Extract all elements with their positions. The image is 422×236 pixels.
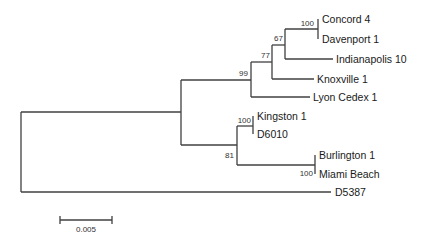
- leaf-label: Knoxville 1: [317, 73, 368, 85]
- leaf-label: Indianapolis 10: [336, 53, 407, 65]
- bootstrap-value: 81: [225, 151, 234, 160]
- leaf-label: Miami Beach: [319, 168, 380, 180]
- leaf-label: Lyon Cedex 1: [313, 91, 378, 103]
- bootstrap-value: 77: [261, 51, 270, 60]
- bootstrap-value: 100: [301, 19, 315, 28]
- leaf-label: D6010: [257, 128, 288, 140]
- bootstrap-value: 100: [300, 169, 314, 178]
- leaf-label: D5387: [335, 186, 366, 198]
- scale-bar: 0.005: [60, 216, 112, 234]
- leaf-label: Kingston 1: [257, 110, 307, 122]
- bootstrap-value: 99: [239, 69, 248, 78]
- leaf-label: Davenport 1: [322, 33, 379, 45]
- scale-bar-label: 0.005: [76, 225, 97, 234]
- leaf-label: Concord 4: [322, 13, 371, 25]
- bootstrap-value: 100: [238, 116, 252, 125]
- phylogenetic-tree: Concord 4 Davenport 1 Indianapolis 10 Kn…: [0, 0, 422, 236]
- bootstrap-value: 67: [274, 34, 283, 43]
- leaf-label: Burlington 1: [319, 149, 375, 161]
